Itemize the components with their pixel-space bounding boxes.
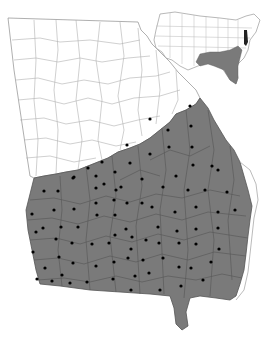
georgia-map <box>0 0 272 339</box>
